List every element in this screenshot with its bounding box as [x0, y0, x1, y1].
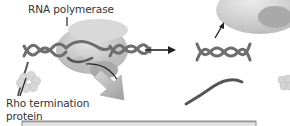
rho-label-line2: protein [6, 110, 43, 122]
released-polymerase [216, 0, 290, 34]
rho-label-line1: Rho termination [6, 97, 89, 109]
release-arrow-icon [215, 22, 224, 38]
rho-termination-diagram: RNA polymerase Rho termination protein [0, 0, 290, 126]
bottom-panel-bar [22, 121, 256, 126]
rho-protein-released-icon [278, 75, 290, 90]
rna-polymerase-label: RNA polymerase [28, 3, 114, 15]
released-rna [186, 80, 242, 104]
dna-helix-released [197, 44, 250, 60]
